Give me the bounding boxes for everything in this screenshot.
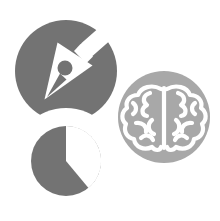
brain-icon — [118, 71, 210, 163]
pen-nib-icon — [15, 20, 117, 122]
pie-circle — [13, 108, 119, 214]
brain-circle — [112, 65, 216, 169]
icon-composition — [0, 0, 220, 221]
icon-composition-canvas — [0, 0, 220, 221]
pie-chart-icon — [19, 114, 113, 208]
